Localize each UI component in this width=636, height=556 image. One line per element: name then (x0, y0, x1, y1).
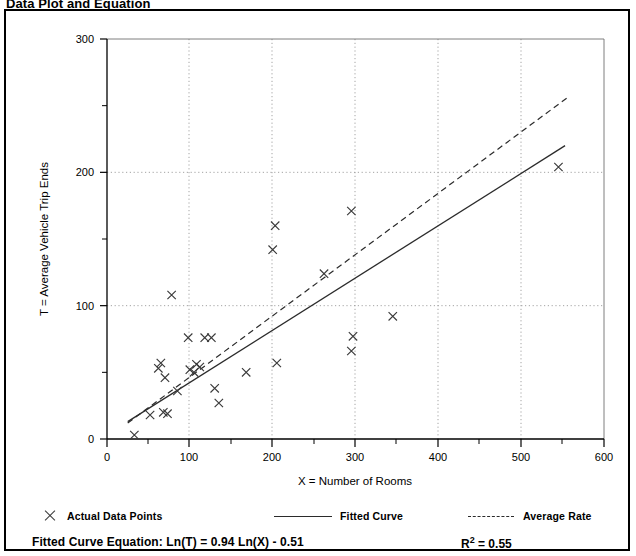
y-tick-label-200: 200 (76, 166, 94, 178)
r-squared-exponent: 2 (470, 535, 475, 545)
y-tick-label-100: 100 (76, 300, 94, 312)
x-axis-major-ticks (107, 439, 604, 447)
x-tick-label-400: 400 (429, 451, 447, 463)
y-tick-label-300: 300 (76, 33, 94, 45)
x-tick-label-300: 300 (346, 451, 364, 463)
legend-label-fitted-curve: Fitted Curve (340, 510, 403, 522)
chart-legend: Actual Data Points Fitted Curve Average … (6, 503, 632, 529)
plot-background (107, 39, 604, 439)
legend-label-average-rate: Average Rate (523, 510, 592, 522)
x-marker-icon (42, 508, 58, 524)
figure-frame: 0 100 200 300 0 100 200 300 400 500 600 … (4, 9, 630, 551)
x-tick-label-100: 100 (180, 451, 198, 463)
r-squared-symbol: R (461, 537, 470, 551)
legend-label-actual-data-points: Actual Data Points (67, 510, 162, 522)
legend-item-actual-data-points: Actual Data Points (42, 503, 162, 529)
scatter-chart: 0 100 200 300 0 100 200 300 400 500 600 … (6, 11, 628, 501)
x-tick-label-0: 0 (104, 451, 110, 463)
x-tick-label-500: 500 (512, 451, 530, 463)
fitted-curve-equation: Fitted Curve Equation: Ln(T) = 0.94 Ln(X… (32, 535, 304, 549)
r-squared-number: = 0.55 (478, 537, 512, 551)
y-axis-minor-ticks (102, 106, 107, 373)
x-tick-label-600: 600 (595, 451, 613, 463)
legend-item-fitted-curve: Fitted Curve (274, 503, 403, 529)
y-tick-label-0: 0 (88, 433, 94, 445)
solid-line-icon (274, 516, 332, 517)
r-squared-value: R2 = 0.55 (461, 535, 512, 551)
equation-row: Fitted Curve Equation: Ln(T) = 0.94 Ln(X… (6, 533, 632, 556)
y-axis-title: T = Average Vehicle Trip Ends (38, 162, 50, 316)
dashed-line-icon (468, 516, 514, 517)
x-axis-title: X = Number of Rooms (298, 475, 412, 487)
x-tick-label-200: 200 (263, 451, 281, 463)
legend-item-average-rate: Average Rate (468, 503, 592, 529)
